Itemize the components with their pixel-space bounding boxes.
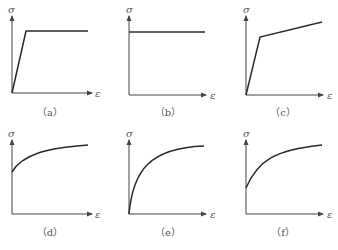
panel-e: σ ε （e） xyxy=(126,128,215,238)
caption-d: （d） xyxy=(37,227,63,238)
panel-d: σ ε （d） xyxy=(8,128,100,238)
curve-c xyxy=(246,22,322,95)
sigma-label: σ xyxy=(8,128,16,139)
epsilon-label: ε xyxy=(327,209,332,220)
caption-e: （e） xyxy=(155,227,181,238)
epsilon-label: ε xyxy=(210,209,215,220)
epsilon-label: ε xyxy=(327,90,332,101)
epsilon-label: ε xyxy=(95,88,100,99)
panel-c: σ ε （c） xyxy=(243,4,332,118)
stress-strain-diagram: σ ε （a） σ ε （b） σ ε （c） σ ε （d） σ ε （e） xyxy=(0,0,338,250)
caption-f: （f） xyxy=(271,227,295,238)
sigma-label: σ xyxy=(243,128,251,139)
sigma-label: σ xyxy=(126,4,134,15)
caption-a: （a） xyxy=(37,107,63,118)
panel-f: σ ε （f） xyxy=(243,128,332,238)
epsilon-label: ε xyxy=(210,90,215,101)
sigma-label: σ xyxy=(8,4,16,15)
curve-f xyxy=(246,145,322,188)
panel-a: σ ε （a） xyxy=(8,4,100,118)
sigma-label: σ xyxy=(243,4,251,15)
curve-e xyxy=(129,146,204,214)
epsilon-label: ε xyxy=(95,209,100,220)
caption-b: （b） xyxy=(155,107,181,118)
curve-a xyxy=(12,31,88,93)
panel-b: σ ε （b） xyxy=(126,4,215,118)
sigma-label: σ xyxy=(126,128,134,139)
caption-c: （c） xyxy=(270,107,296,118)
curve-d xyxy=(12,145,88,172)
